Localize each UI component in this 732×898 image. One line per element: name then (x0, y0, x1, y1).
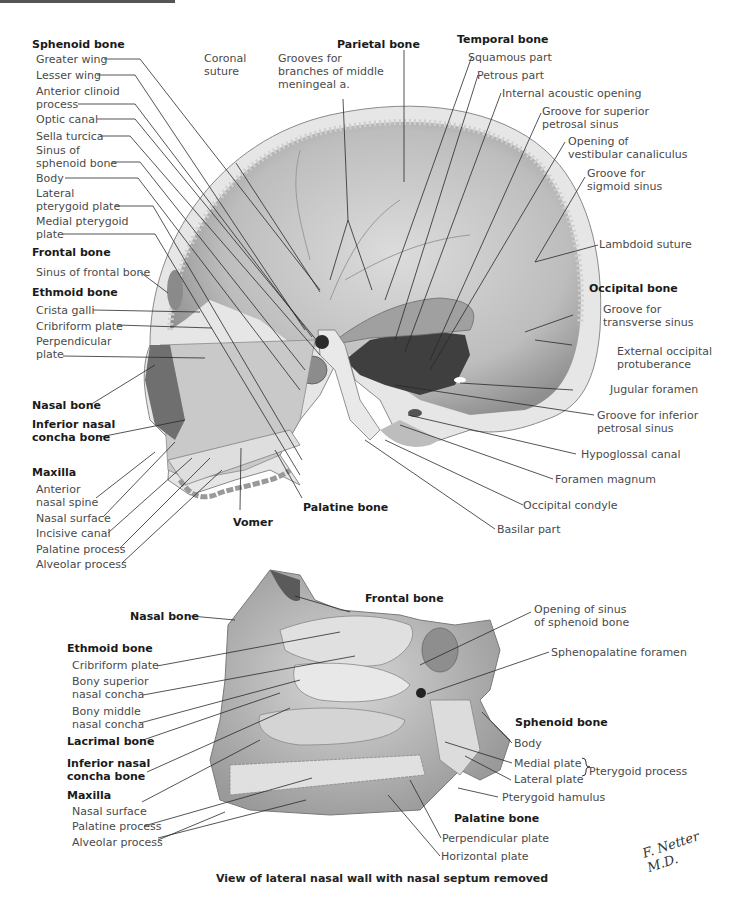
label-grooves-meningeal: Grooves for branches of middle meningeal… (278, 52, 384, 91)
label-ethmoid-bone: Ethmoid bone (32, 286, 118, 299)
label-groove-transverse: Groove for transverse sinus (603, 303, 694, 329)
label-lower-ethmoid-bone: Ethmoid bone (67, 642, 153, 655)
label-lower-body: Body (514, 737, 542, 750)
label-optic-canal: Optic canal (36, 113, 98, 126)
label-frontal-bone: Frontal bone (32, 246, 111, 259)
label-petrous-part: Petrous part (477, 69, 544, 82)
label-lower-cribriform: Cribriform plate (72, 659, 159, 672)
label-temporal-bone: Temporal bone (457, 33, 549, 46)
label-jugular-foramen: Jugular foramen (610, 383, 698, 396)
label-sphenopalatine-foramen: Sphenopalatine foramen (551, 646, 687, 659)
label-horizontal-plate: Horizontal plate (441, 850, 529, 863)
label-cribriform-plate: Cribriform plate (36, 320, 123, 333)
label-internal-acoustic-opening: Internal acoustic opening (502, 87, 642, 100)
label-medial-plate: Medial plate (514, 757, 581, 770)
skull-sagittal-section (144, 106, 601, 497)
label-coronal-suture: Coronal suture (204, 52, 246, 78)
label-parietal-bone: Parietal bone (337, 38, 420, 51)
label-sphenoid-bone: Sphenoid bone (32, 38, 125, 51)
label-occipital-bone: Occipital bone (589, 282, 678, 295)
label-bony-superior-concha: Bony superior nasal concha (72, 675, 149, 701)
label-lower-nasal-bone: Nasal bone (130, 610, 199, 623)
label-sinus-frontal: Sinus of frontal bone (36, 266, 150, 279)
label-opening-sphenoid-sinus: Opening of sinus of sphenoid bone (534, 603, 629, 629)
label-body: Body (36, 172, 64, 185)
label-basilar-part: Basilar part (497, 523, 560, 536)
label-groove-sigmoid: Groove for sigmoid sinus (587, 167, 662, 193)
label-lower-palatine-process: Palatine process (72, 820, 162, 833)
label-foramen-magnum: Foramen magnum (555, 473, 656, 486)
label-groove-superior-petrosal: Groove for superior petrosal sinus (542, 105, 649, 131)
label-maxilla: Maxilla (32, 466, 76, 479)
label-lesser-wing: Lesser wing (36, 69, 101, 82)
label-sella-turcica: Sella turcica (36, 130, 104, 143)
label-palatine-bone: Palatine bone (303, 501, 388, 514)
label-hypoglossal-canal: Hypoglossal canal (581, 448, 681, 461)
label-occipital-condyle: Occipital condyle (523, 499, 618, 512)
label-nasal-surface: Nasal surface (36, 512, 111, 525)
label-perpendicular-plate-lower: Perpendicular plate (442, 832, 549, 845)
label-lower-frontal-bone: Frontal bone (365, 592, 444, 605)
label-lower-nasal-surface: Nasal surface (72, 805, 147, 818)
label-medial-pterygoid: Medial pterygoid plate (36, 215, 128, 241)
label-groove-inferior-petrosal: Groove for inferior petrosal sinus (597, 409, 698, 435)
label-alveolar-process: Alveolar process (36, 558, 127, 571)
label-greater-wing: Greater wing (36, 53, 107, 66)
label-external-occipital: External occipital protuberance (617, 345, 712, 371)
label-bony-middle-concha: Bony middle nasal concha (72, 705, 144, 731)
label-crista-galli: Crista galli (36, 304, 94, 317)
label-lacrimal-bone: Lacrimal bone (67, 735, 154, 748)
figure-caption: View of lateral nasal wall with nasal se… (216, 872, 548, 885)
label-lower-inferior-concha: Inferior nasal concha bone (67, 757, 150, 783)
label-inferior-nasal-concha: Inferior nasal concha bone (32, 418, 115, 444)
label-lateral-plate: Lateral plate (514, 773, 584, 786)
label-pterygoid-process: Pterygoid process (589, 765, 687, 778)
label-vomer: Vomer (233, 516, 273, 529)
label-anterior-clinoid: Anterior clinoid process (36, 85, 120, 111)
label-perpendicular-plate: Perpendicular plate (36, 335, 112, 361)
label-lower-maxilla: Maxilla (67, 789, 111, 802)
label-sinus-sphenoid: Sinus of sphenoid bone (36, 144, 117, 170)
label-lower-sphenoid-bone: Sphenoid bone (515, 716, 608, 729)
label-incisive-canal: Incisive canal (36, 527, 110, 540)
label-lambdoid-suture: Lambdoid suture (599, 238, 692, 251)
label-lateral-pterygoid: Lateral pterygoid plate (36, 187, 120, 213)
label-vestibular-canaliculus: Opening of vestibular canaliculus (568, 135, 688, 161)
label-anterior-nasal-spine: Anterior nasal spine (36, 483, 98, 509)
label-palatine-process: Palatine process (36, 543, 126, 556)
label-nasal-bone: Nasal bone (32, 399, 101, 412)
label-lower-alveolar-process: Alveolar process (72, 836, 163, 849)
label-squamous-part: Squamous part (468, 51, 552, 64)
label-lower-palatine-bone: Palatine bone (454, 812, 539, 825)
label-pterygoid-hamulus: Pterygoid hamulus (502, 791, 605, 804)
